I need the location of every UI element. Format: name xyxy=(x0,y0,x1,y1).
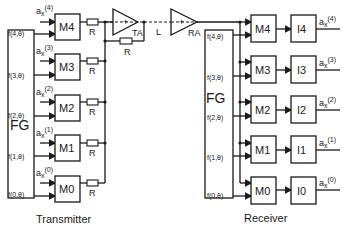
svg-text:I4: I4 xyxy=(297,23,306,35)
svg-text:R: R xyxy=(89,148,96,158)
tx-resistor xyxy=(87,19,98,25)
svg-text:ax(0): ax(0) xyxy=(319,176,336,189)
tx-feedback-resistor xyxy=(120,38,132,44)
svg-text:f(3,θ): f(3,θ) xyxy=(8,72,24,80)
svg-text:M2: M2 xyxy=(255,104,270,116)
svg-text:ax(1): ax(1) xyxy=(319,136,336,149)
tx-resistor xyxy=(87,140,98,146)
line-label: L xyxy=(156,27,161,37)
svg-text:M2: M2 xyxy=(59,102,74,114)
receiver: + RA FG f(4,θ) M4 I4 ax(4) f(3 xyxy=(171,9,340,224)
svg-text:ax(2): ax(2) xyxy=(319,96,336,109)
svg-text:f(1,θ): f(1,θ) xyxy=(8,153,24,161)
svg-text:I1: I1 xyxy=(297,144,306,156)
svg-text:I3: I3 xyxy=(297,64,306,76)
svg-text:+: + xyxy=(179,17,184,27)
tx-amplifier: + TA R xyxy=(105,9,146,57)
rx-fg-label: FG xyxy=(206,90,225,106)
svg-text:f(2,θ): f(2,θ) xyxy=(8,112,24,120)
tx-channel-4: ax(4) f(4,θ) M4 R xyxy=(8,4,105,40)
svg-text:I0: I0 xyxy=(297,185,306,197)
svg-text:f(1,θ): f(1,θ) xyxy=(207,154,223,162)
tx-resistor xyxy=(87,99,98,105)
tx-freq-label: f(4,θ) xyxy=(8,30,24,38)
svg-text:f(0,θ): f(0,θ) xyxy=(207,192,223,200)
svg-text:+: + xyxy=(123,17,128,27)
transmitter-receiver-diagram: FG ax(4) f(4,θ) M4 R ax(3) f(3,θ) xyxy=(0,0,344,229)
svg-text:f(3,θ): f(3,θ) xyxy=(207,74,223,82)
svg-text:ax(2): ax(2) xyxy=(36,85,53,98)
svg-text:TA: TA xyxy=(132,28,143,38)
svg-text:ax(3): ax(3) xyxy=(319,56,336,69)
svg-text:I2: I2 xyxy=(297,104,306,116)
svg-text:R: R xyxy=(124,47,131,57)
tx-resistor xyxy=(87,58,98,64)
transmitter-label: Transmitter xyxy=(36,213,92,225)
svg-text:ax(0): ax(0) xyxy=(36,166,53,179)
tx-resistor xyxy=(87,180,98,186)
svg-text:f(0,θ): f(0,θ) xyxy=(8,191,24,199)
tx-fg-label: FG xyxy=(10,117,29,133)
svg-text:M3: M3 xyxy=(59,61,74,73)
svg-text:ax(1): ax(1) xyxy=(36,126,53,139)
svg-text:M4: M4 xyxy=(59,21,74,33)
svg-text:ax(4): ax(4) xyxy=(36,4,53,17)
svg-text:M1: M1 xyxy=(255,144,270,156)
svg-text:M0: M0 xyxy=(255,185,270,197)
receiver-label: Receiver xyxy=(244,212,288,224)
svg-text:M1: M1 xyxy=(59,142,74,154)
svg-text:R: R xyxy=(89,66,96,76)
svg-text:R: R xyxy=(89,27,96,37)
svg-text:f(2,θ): f(2,θ) xyxy=(207,114,223,122)
svg-text:M0: M0 xyxy=(59,183,74,195)
svg-text:R: R xyxy=(89,188,96,198)
svg-text:ax(4): ax(4) xyxy=(319,15,336,28)
svg-text:M4: M4 xyxy=(255,23,270,35)
svg-text:M3: M3 xyxy=(255,64,270,76)
svg-text:R: R xyxy=(89,107,96,117)
transmitter: FG ax(4) f(4,θ) M4 R ax(3) f(3,θ) xyxy=(8,4,146,225)
svg-text:f(4,θ): f(4,θ) xyxy=(207,33,223,41)
svg-text:RA: RA xyxy=(188,28,201,38)
svg-text:ax(3): ax(3) xyxy=(36,44,53,57)
